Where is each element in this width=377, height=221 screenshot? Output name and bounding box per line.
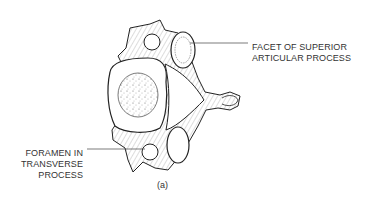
facet-label-line-1: FACET OF SUPERIOR [252,42,351,53]
superior-facet [171,32,195,68]
figure-caption: (a) [157,180,168,190]
foramen-transversarium [142,144,158,160]
foramen-label-line-3: PROCESS [8,170,83,181]
foramen-label-line-1: FORAMEN IN [8,148,83,159]
vertebra-illustration [0,0,377,221]
foramen-label: FORAMEN IN TRANSVERSE PROCESS [8,148,83,181]
foramen-label-line-2: TRANSVERSE [8,159,83,170]
facet-label-line-2: ARTICULAR PROCESS [252,53,351,64]
facet-label: FACET OF SUPERIOR ARTICULAR PROCESS [252,42,351,64]
